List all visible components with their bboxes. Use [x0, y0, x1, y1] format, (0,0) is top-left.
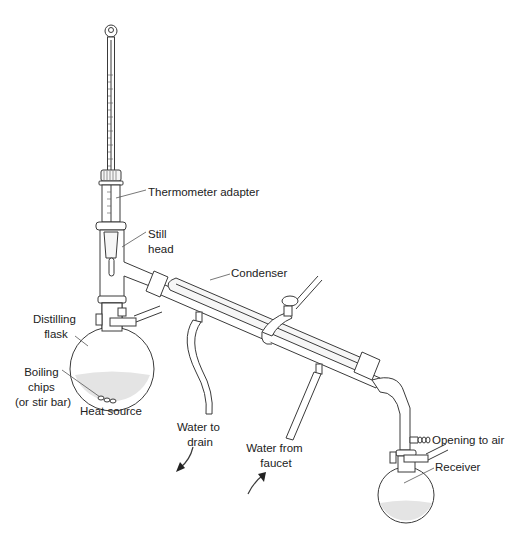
receiver-flask — [378, 444, 448, 523]
label-opening-to-air: Opening to air — [432, 434, 504, 446]
drain-arrow-icon — [176, 447, 193, 472]
label-distilling-flask: Distilling flask — [33, 313, 79, 340]
label-still-head: Still head — [148, 228, 174, 255]
label-boiling-chips: Boiling chips (or stir bar) — [15, 366, 71, 408]
label-condenser: Condenser — [231, 267, 287, 279]
label-water-to-drain: Water to drain — [177, 421, 223, 448]
water-inlet-hose — [286, 364, 322, 440]
faucet-arrow-icon — [248, 472, 266, 494]
distillation-apparatus-diagram: Thermometer adapter Still head Condenser… — [0, 0, 518, 534]
air-opening-ridges — [418, 437, 430, 443]
label-heat-source: Heat source — [80, 405, 142, 417]
thermometer-adapter — [99, 170, 123, 222]
vacuum-adapter — [372, 378, 430, 456]
water-outlet-hose — [187, 312, 212, 414]
label-thermometer-adapter: Thermometer adapter — [148, 186, 259, 198]
label-receiver: Receiver — [435, 461, 481, 473]
label-water-from-faucet: Water from faucet — [246, 442, 306, 469]
